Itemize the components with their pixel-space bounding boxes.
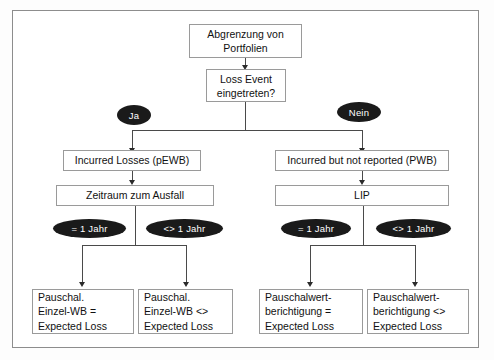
connector-decision-split-bar	[132, 130, 363, 131]
label-right-condition-equal[interactable]: = 1 Jahr	[281, 219, 351, 238]
node-loss-event-eingetreten[interactable]: Loss Event eingetreten?	[206, 69, 286, 102]
label-branch-nein[interactable]: Nein	[337, 102, 381, 122]
result-pauschalwertberichtigung-not-equal[interactable]: Pauschalwert- berichtigung <> Expected L…	[367, 289, 469, 334]
arrowhead-left-result2	[183, 282, 189, 287]
arrowhead-left-result1	[79, 282, 85, 287]
connector-decision-right-drop	[362, 130, 363, 150]
flowchart-canvas: Abgrenzung von Portfolien Loss Event ein…	[0, 0, 494, 360]
connector-right-result2-drop	[415, 245, 416, 284]
node-lip[interactable]: LIP	[275, 185, 449, 206]
connector-right-split-bar	[310, 245, 416, 246]
connector-left-stage2-stem	[135, 206, 136, 245]
connector-left-result1-drop	[82, 245, 83, 284]
connector-decision-stem	[245, 102, 246, 130]
connector-left-result2-drop	[186, 245, 187, 284]
node-zeitraum-zum-ausfall[interactable]: Zeitraum zum Ausfall	[56, 185, 214, 206]
node-abgrenzung-von-portfolien[interactable]: Abgrenzung von Portfolien	[189, 24, 302, 58]
result-pauschal-einzel-wb-not-equal[interactable]: Pauschal. Einzel-WB <> Expected Loss	[138, 289, 233, 334]
diagram-frame: Abgrenzung von Portfolien Loss Event ein…	[12, 10, 479, 348]
connector-decision-left-drop	[132, 130, 133, 150]
node-incurred-losses-pewb[interactable]: Incurred Losses (pEWB)	[63, 150, 201, 171]
label-left-condition-equal[interactable]: = 1 Jahr	[53, 219, 126, 238]
connector-right-result1-drop	[310, 245, 311, 284]
result-pauschal-einzel-wb-equal[interactable]: Pauschal. Einzel-WB = Expected Loss	[32, 289, 134, 334]
connector-right-stage2-stem	[363, 206, 364, 245]
arrowhead-right-result1	[307, 282, 313, 287]
result-pauschalwertberichtigung-equal[interactable]: Pauschalwert- berichtigung = Expected Lo…	[259, 289, 363, 334]
label-right-condition-not-equal[interactable]: <> 1 Jahr	[376, 219, 451, 238]
connector-left-split-bar	[82, 245, 187, 246]
label-left-condition-not-equal[interactable]: <> 1 Jahr	[146, 219, 223, 238]
arrowhead-right-result2	[412, 282, 418, 287]
node-incurred-but-not-reported-pwb[interactable]: Incurred but not reported (PWB)	[275, 150, 449, 171]
label-branch-ja[interactable]: Ja	[117, 105, 151, 125]
